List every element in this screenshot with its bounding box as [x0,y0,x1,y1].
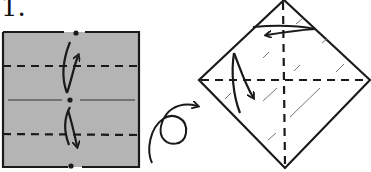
diamond-figure [199,0,370,168]
center-reference-dot [67,97,72,102]
origami-diagram [0,0,371,172]
bottom-reference-dot [68,163,73,168]
turn-over-icon [149,105,197,163]
top-reference-dot [73,30,78,35]
square-figure [3,30,139,168]
